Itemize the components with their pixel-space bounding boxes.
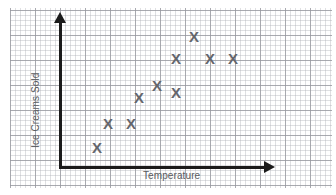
data-point-marker: X (187, 29, 202, 44)
data-point-marker: X (90, 140, 105, 155)
y-axis-label-text: Ice Creams Sold (30, 48, 41, 148)
x-axis-arrowhead-icon (264, 161, 275, 173)
y-axis-line (59, 22, 62, 169)
x-axis-label: Temperature (143, 170, 200, 181)
data-point-marker: X (203, 51, 218, 66)
data-point-marker: X (169, 85, 184, 100)
y-axis-arrowhead-icon (54, 12, 66, 23)
data-point-marker: X (169, 51, 184, 66)
x-axis-line (60, 166, 266, 169)
data-point-marker: X (132, 90, 147, 105)
data-point-marker: X (124, 116, 139, 131)
data-point-marker: X (150, 78, 165, 93)
data-point-marker: X (226, 51, 241, 66)
data-point-marker: X (101, 116, 116, 131)
y-axis-label: Ice Creams Sold (30, 0, 41, 48)
scatter-plot-screenshot: Ice Creams Sold Temperature XXXXXXXXXX (0, 0, 336, 195)
